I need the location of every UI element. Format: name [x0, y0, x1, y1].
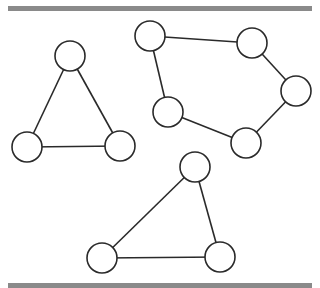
graph-edge — [102, 257, 220, 258]
graph-node — [153, 97, 183, 127]
bottom-triangle — [87, 152, 235, 273]
graph-node — [231, 128, 261, 158]
graph-node — [281, 76, 311, 106]
graph-edge — [102, 167, 195, 258]
left-triangle — [12, 41, 135, 162]
graph-node — [135, 21, 165, 51]
graph-node — [105, 131, 135, 161]
pentagon — [135, 21, 311, 158]
graph-node — [205, 242, 235, 272]
graph-canvas — [0, 0, 320, 288]
graph-node — [55, 41, 85, 71]
graph-node — [237, 28, 267, 58]
graph-node — [180, 152, 210, 182]
graph-node — [87, 243, 117, 273]
bottom-rule — [8, 283, 312, 288]
graph-node — [12, 132, 42, 162]
